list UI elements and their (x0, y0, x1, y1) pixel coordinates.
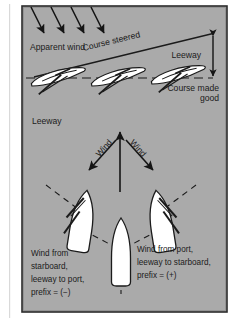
course-made-good-label-line1: Course made (167, 83, 219, 93)
left-caption-line3: leeway to port, (31, 275, 84, 284)
course-made-good-label-line2: good (200, 93, 219, 103)
left-caption-line2: starboard, (31, 262, 68, 271)
left-rule (9, 4, 10, 318)
right-caption-line3: prefix = (+) (137, 271, 177, 280)
left-caption-line1: Wind from (31, 249, 68, 258)
right-caption-line1: Wind from port, (137, 245, 193, 254)
leeway-label-middle: Leeway (32, 116, 62, 126)
diagram-canvas: Apparent wind Course steered Leeway Cour… (0, 0, 239, 329)
right-caption-line2: leeway to starboard, (137, 258, 211, 267)
left-caption-line4: prefix = (−) (31, 288, 71, 297)
leeway-label-upper: Leeway (171, 50, 201, 60)
apparent-wind-label: Apparent wind (30, 42, 85, 52)
leeway-diagram-figure: Apparent wind Course steered Leeway Cour… (0, 0, 239, 329)
